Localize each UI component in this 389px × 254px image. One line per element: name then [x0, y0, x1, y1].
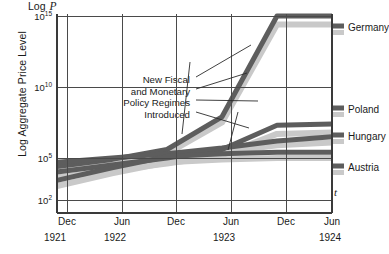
legend-swatch-austria	[332, 164, 344, 169]
legend-swatch-hungary	[332, 133, 344, 138]
gridlines	[57, 14, 332, 213]
legend-swatch-shadow-poland	[332, 112, 344, 117]
legend-swatch-poland	[332, 106, 344, 111]
legend-swatch-shadow-austria	[332, 170, 344, 175]
legend-swatch-shadow-germany	[332, 30, 344, 35]
legend-swatch-shadow-hungary	[332, 139, 344, 144]
legend-swatch-germany	[332, 24, 344, 29]
plot-frame	[57, 14, 332, 213]
